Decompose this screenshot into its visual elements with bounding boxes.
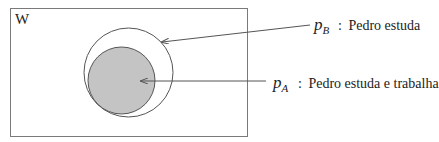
universe-label: W (15, 11, 30, 27)
label-pb-separator: : (338, 18, 342, 33)
svg-text:: Pedro estuda e trabalh: : Pedro estuda e trabalha (298, 76, 439, 91)
label-pb: pB : Pedro estuda (313, 15, 421, 36)
label-pb-subscript: B (323, 24, 330, 36)
svg-text:: Pedro estuda: : Pedro estuda (338, 18, 421, 33)
label-pa-symbol: p (272, 73, 282, 92)
label-pa-separator: : (298, 76, 302, 91)
venn-diagram: W pB : Pedro estuda pA : Pedro estuda e … (0, 0, 439, 142)
pointer-arrow-pb (162, 25, 310, 42)
svg-text:pA: pA (272, 73, 289, 94)
svg-text:pB: pB (313, 15, 330, 36)
label-pa-subscript: A (281, 82, 289, 94)
label-pa-description: Pedro estuda e trabalha (308, 76, 439, 91)
label-pa: pA : Pedro estuda e trabalha (272, 73, 439, 94)
label-pb-symbol: p (313, 15, 323, 34)
label-pb-description: Pedro estuda (348, 18, 421, 33)
